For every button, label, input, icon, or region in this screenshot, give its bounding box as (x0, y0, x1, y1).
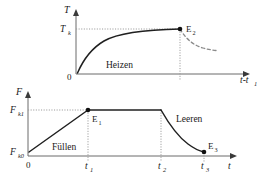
lower-plot: F F k1 F k0 0 Füllen Leeren E 1 E 3 t 1 … (9, 86, 237, 173)
lower-x-tick-1-label: t (85, 161, 88, 171)
point-e2-marker (178, 27, 183, 32)
point-e1-label-sub: 1 (99, 119, 102, 126)
lower-y-tick-low-label: F (9, 147, 16, 157)
upper-y-tick-label-sub: k (68, 29, 71, 36)
lower-origin-label: 0 (26, 160, 31, 170)
lower-x-tick-1-sub: 1 (90, 166, 93, 173)
lower-x-axis-label: t (228, 161, 231, 171)
point-e1-marker (86, 108, 91, 113)
point-e1-label: E (92, 114, 98, 124)
point-e2-label-sub: 2 (193, 29, 196, 36)
process-diagram: T T k 0 Heizen E 2 t-t 1 (0, 0, 267, 174)
upper-x-axis-label-sub: 1 (254, 80, 257, 87)
lower-x-tick-2-label: t (158, 161, 161, 171)
lower-y-tick-high-label: F (9, 105, 16, 115)
upper-y-tick-label: T (60, 24, 66, 34)
upper-y-axis-label: T (64, 4, 71, 15)
point-e2-label: E (186, 24, 192, 34)
upper-phase-label-heizen: Heizen (106, 60, 133, 70)
lower-y-tick-low-sub: k0 (18, 152, 25, 159)
lower-x-tick-3-label: t (201, 161, 204, 171)
upper-y-axis-arrow (73, 9, 79, 16)
lower-y-axis-arrow (25, 91, 31, 98)
point-e3-label-sub: 3 (215, 146, 218, 153)
lower-y-tick-high-sub: k1 (18, 110, 24, 117)
lower-y-axis-label: F (15, 86, 23, 97)
upper-x-axis-label: t-t (240, 75, 249, 85)
figure-root: T T k 0 Heizen E 2 t-t 1 (0, 0, 267, 174)
lower-phase-label-fuellen: Füllen (52, 142, 77, 152)
lower-x-tick-2-sub: 2 (163, 166, 167, 173)
lower-x-tick-3-sub: 3 (205, 166, 209, 173)
lower-x-axis-arrow (230, 153, 237, 159)
lower-phase-label-leeren: Leeren (176, 114, 203, 124)
upper-origin-label: 0 (67, 72, 72, 82)
point-e3-marker (202, 150, 207, 155)
point-e3-label: E (208, 141, 214, 151)
upper-plot: T T k 0 Heizen E 2 t-t 1 (60, 4, 257, 87)
